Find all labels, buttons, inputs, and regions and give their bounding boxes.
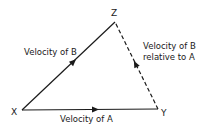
- arrowhead-icon: [92, 107, 99, 113]
- vertex-label-y: Y: [161, 109, 167, 118]
- label-velocity-b: Velocity of B: [24, 47, 77, 57]
- vector-velocity-a-line: [22, 109, 158, 110]
- label-relative-velocity-line1: Velocity of B: [143, 41, 196, 51]
- vertex-label-x: X: [11, 108, 17, 117]
- arrowhead-icon: [131, 59, 139, 68]
- vertex-label-z: Z: [111, 9, 117, 18]
- label-relative-velocity-line2: relative to A: [143, 52, 195, 62]
- vector-velocity-b-line: [22, 22, 115, 110]
- label-velocity-a: Velocity of A: [60, 114, 113, 124]
